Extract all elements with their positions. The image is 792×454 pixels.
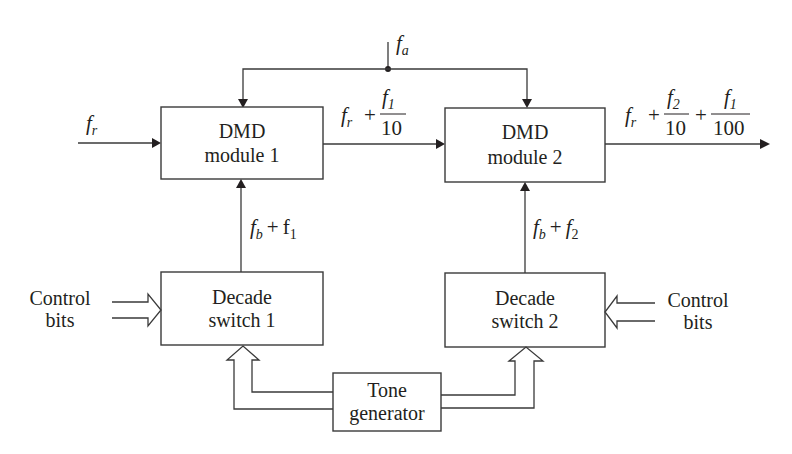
- tone-to-switch2-bus: [441, 347, 543, 408]
- switch1-line1: Decade: [212, 286, 272, 308]
- switch2-to-dmd2-wire: [520, 182, 530, 273]
- svg-text:f1: f1: [382, 85, 395, 112]
- control-bits-right-label: Control bits: [667, 289, 729, 333]
- switch2-line2: switch 2: [491, 310, 558, 332]
- svg-text:10: 10: [381, 116, 402, 140]
- svg-text:bits: bits: [684, 311, 713, 333]
- svg-text:f1: f1: [724, 85, 737, 112]
- dmd-block-diagram: fa fr DMD module 1 fr + f1 10 DMD module…: [0, 0, 792, 454]
- final-output-wire: [605, 139, 770, 149]
- svg-text:10: 10: [665, 116, 686, 140]
- switch1-to-dmd1-wire: [236, 179, 246, 272]
- svg-text:f2: f2: [667, 85, 680, 112]
- switch2-line1: Decade: [495, 287, 555, 309]
- svg-text:+: +: [695, 103, 707, 127]
- dmd-module-2: DMD module 2: [445, 108, 605, 182]
- dmd2-line2: module 2: [488, 146, 563, 168]
- decade-switch-1: Decade switch 1: [161, 272, 323, 345]
- fr-input-label: fr: [86, 111, 98, 138]
- fb2-label: fb+f2: [533, 215, 579, 242]
- svg-text:fr: fr: [625, 103, 637, 130]
- fb1-label: fb+f1: [250, 215, 297, 242]
- control-bits-left-label: Control bits: [29, 287, 91, 331]
- mid-output-label: fr + f1 10: [341, 85, 406, 140]
- svg-text:+: +: [648, 103, 660, 127]
- tone-line2: generator: [349, 402, 425, 425]
- tone-line1: Tone: [367, 379, 407, 401]
- decade-switch-2: Decade switch 2: [445, 273, 605, 347]
- svg-text:Control: Control: [29, 287, 91, 309]
- fa-label: fa: [396, 31, 409, 58]
- dmd2-line1: DMD: [502, 121, 549, 143]
- svg-text:bits: bits: [46, 309, 75, 331]
- dmd1-line1: DMD: [219, 120, 266, 142]
- tone-generator: Tone generator: [333, 373, 441, 431]
- final-output-label: fr + f2 10 + f1 100: [625, 85, 750, 140]
- svg-text:100: 100: [713, 116, 745, 140]
- switch1-line2: switch 1: [208, 309, 275, 331]
- tone-to-switch1-bus: [227, 346, 333, 409]
- svg-text:+: +: [364, 103, 376, 127]
- svg-text:Control: Control: [667, 289, 729, 311]
- fr-input-wire: [78, 138, 161, 148]
- control-bits-right-arrow: [605, 296, 655, 328]
- dmd1-line2: module 1: [205, 144, 280, 166]
- dmd1-to-dmd2-wire: [323, 139, 445, 149]
- dmd-module-1: DMD module 1: [161, 107, 323, 179]
- svg-text:fr: fr: [341, 103, 353, 130]
- control-bits-left-arrow: [112, 294, 161, 326]
